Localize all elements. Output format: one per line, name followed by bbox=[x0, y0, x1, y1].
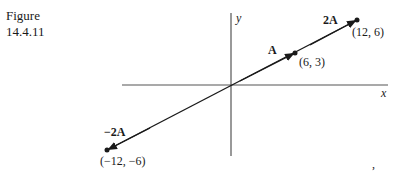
point-12-6 bbox=[355, 18, 360, 23]
vector-diagram: x y A (6, 3) 2A (12, 6) −2A (−12, −6) , bbox=[0, 0, 414, 178]
point-6-3 bbox=[293, 51, 298, 56]
point-neg12-neg6-label: (−12, −6) bbox=[100, 154, 146, 168]
vector-2A-label: 2A bbox=[323, 13, 338, 27]
point-12-6-label: (12, 6) bbox=[352, 25, 384, 39]
vector-neg2A-label: −2A bbox=[104, 125, 126, 139]
stray-mark: , bbox=[372, 157, 375, 171]
x-axis-label: x bbox=[380, 86, 387, 100]
vector-A-arrow bbox=[240, 54, 293, 81]
y-axis-label: y bbox=[235, 11, 242, 25]
point-6-3-label: (6, 3) bbox=[299, 55, 325, 69]
vector-A-label: A bbox=[268, 43, 277, 57]
point-neg12-neg6 bbox=[105, 148, 110, 153]
